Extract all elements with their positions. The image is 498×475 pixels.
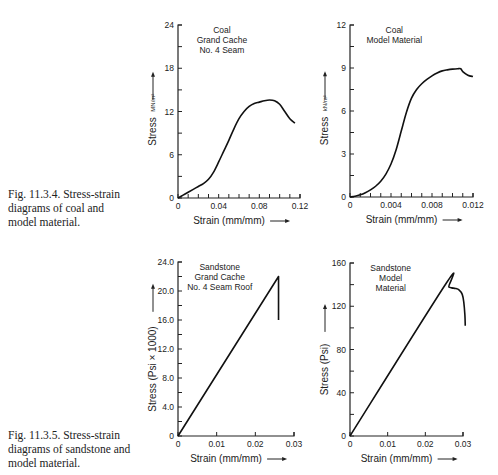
chart-title-line: No. 4 Seam [199,45,244,55]
y-axis-label: Stress (Psi) [319,304,330,395]
x-tick-label: 0 [176,439,181,449]
chart-title-line: Model [379,273,402,283]
axes [350,25,473,197]
y-tick-label: 8.0 [162,373,174,383]
y-tick-label: 24.0 [157,257,174,267]
y-axis-label: StressMN/m² [147,72,158,146]
x-axis-label: Strain (mm/mm) [366,214,438,225]
x-tick-label: 0.02 [417,439,434,449]
x-tick-label: 0 [348,200,353,210]
chart-title-line: Model Material [366,35,422,45]
y-tick-label: 120 [332,301,346,311]
chart-title-line: Grand Cache [194,272,245,282]
chart-title-line: Grand Cache [197,35,248,45]
y-tick-label: 0 [169,193,174,203]
x-tick-label: 0.03 [455,439,472,449]
svg-text:Stress (Psi): Stress (Psi) [319,344,330,396]
charts-canvas: 0612182400.040.080.12Strain (mm/mm)Stres… [0,0,498,475]
arrowhead-icon [282,457,287,461]
stress-strain-curve [178,277,279,437]
y-tick-label: 20.0 [157,286,174,296]
chart-title-line: Sandstone [370,263,411,273]
x-tick-label: 0.01 [379,439,396,449]
y-tick-label: 4.0 [162,402,174,412]
x-tick-label: 0.03 [286,439,303,449]
arrowhead-icon [323,304,327,309]
y-tick-label: 6 [341,106,346,116]
chart-title-line: Coal [213,25,231,35]
chart-title-line: Sandstone [199,262,240,272]
svg-text:Stress: Stress [147,117,158,145]
y-tick-label: 3 [341,149,346,159]
x-axis-label: Strain (mm/mm) [193,215,265,226]
stress-strain-curve [350,68,473,197]
stress-strain-chart-4: 0408012016000.010.020.03Strain (mm/mm)St… [319,258,472,464]
y-tick-label: 6 [169,150,174,160]
y-tick-label: 0 [169,431,174,441]
y-tick-label: 12 [165,107,175,117]
y-tick-label: 160 [332,258,346,268]
stress-strain-chart-2: 03691200.0040.0080.012Strain (mm/mm)Stre… [319,20,484,225]
stress-strain-curve [178,100,295,198]
stress-strain-curve [350,273,465,436]
y-axis-label: Stress (Psi × 1000) [147,284,158,412]
y-tick-label: 80 [337,345,347,355]
stress-strain-chart-3: 04.08.012.016.020.024.000.010.020.03Stra… [147,257,303,464]
chart-title-line: No. 4 Seam Roof [187,282,253,292]
x-tick-label: 0.02 [247,439,264,449]
arrowhead-icon [323,71,327,76]
x-tick-label: 0.008 [421,200,443,210]
y-tick-label: 40 [337,388,347,398]
x-axis-label: Strain (mm/mm) [361,453,433,464]
y-axis-label: StresskN/m² [319,71,330,145]
x-tick-label: 0.08 [251,201,268,211]
svg-text:Stress: Stress [319,117,330,145]
y-tick-label: 12.0 [157,344,174,354]
y-tick-label: 0 [341,431,346,441]
y-tick-label: 24 [165,20,175,30]
stress-strain-chart-1: 0612182400.040.080.12Strain (mm/mm)Stres… [147,20,309,226]
y-tick-label: 16.0 [157,315,174,325]
y-tick-label: 0 [341,192,346,202]
x-tick-label: 0.12 [292,201,309,211]
x-tick-label: 0.012 [462,200,484,210]
x-tick-label: 0.004 [380,200,402,210]
arrowhead-icon [151,72,155,77]
chart-title-line: Material [376,283,406,293]
arrowhead-icon [151,284,155,289]
arrowhead-icon [453,457,458,461]
y-tick-label: 12 [337,20,347,30]
svg-text:Stress (Psi × 1000): Stress (Psi × 1000) [147,326,158,411]
arrowhead-icon [458,218,463,222]
x-tick-label: 0.01 [208,439,225,449]
chart-title-line: Coal [386,25,404,35]
x-tick-label: 0 [176,201,181,211]
arrowhead-icon [285,219,290,223]
x-tick-label: 0 [348,439,353,449]
x-tick-label: 0.04 [210,201,227,211]
y-tick-label: 9 [341,63,346,73]
y-tick-label: 18 [165,63,175,73]
x-axis-label: Strain (mm/mm) [190,453,262,464]
